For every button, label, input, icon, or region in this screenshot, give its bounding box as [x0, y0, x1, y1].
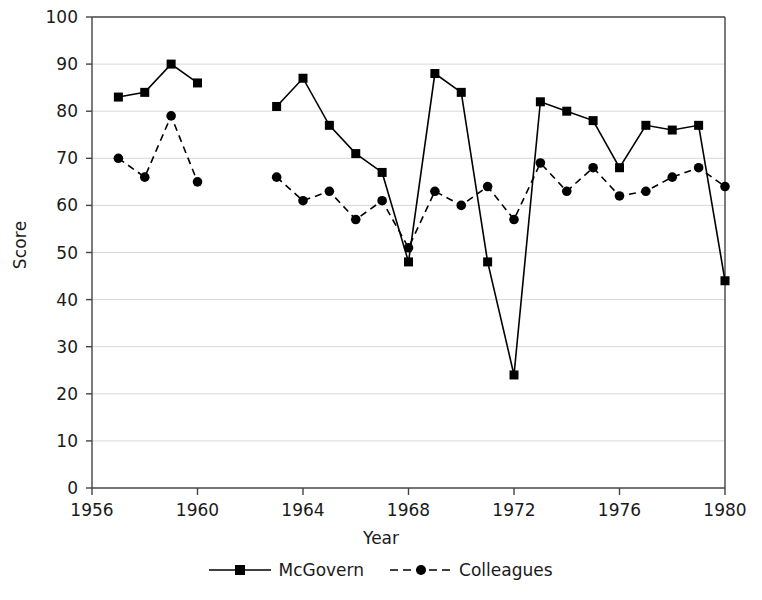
- data-point-marker: [430, 69, 439, 78]
- data-point-marker: [457, 88, 466, 97]
- data-point-marker: [166, 111, 176, 121]
- data-point-marker: [562, 186, 572, 196]
- data-point-marker: [351, 215, 361, 225]
- data-point-marker: [510, 370, 519, 379]
- data-point-marker: [298, 196, 308, 206]
- data-point-marker: [562, 107, 571, 116]
- data-point-marker: [351, 149, 360, 158]
- data-point-marker: [193, 78, 202, 87]
- data-point-marker: [430, 186, 440, 196]
- data-point-marker: [509, 215, 519, 225]
- data-point-marker: [404, 243, 414, 253]
- data-point-marker: [377, 196, 387, 206]
- line-chart: Score 0102030405060708090100 19561960196…: [0, 0, 762, 600]
- data-point-marker: [193, 177, 203, 187]
- x-axis-label: Year: [0, 528, 762, 548]
- chart-legend: McGovern Colleagues: [0, 560, 762, 580]
- data-point-marker: [588, 163, 598, 173]
- data-point-marker: [667, 172, 677, 182]
- legend-marker-dashed-circle-icon: [390, 563, 452, 577]
- data-point-marker: [114, 93, 123, 102]
- data-point-marker: [536, 97, 545, 106]
- legend-label-colleagues: Colleagues: [459, 560, 552, 580]
- data-point-marker: [615, 163, 624, 172]
- data-point-marker: [167, 60, 176, 69]
- data-point-marker: [378, 168, 387, 177]
- data-point-marker: [272, 102, 281, 111]
- data-point-marker: [483, 182, 493, 192]
- data-point-marker: [140, 172, 150, 182]
- data-point-marker: [483, 257, 492, 266]
- series-line-mcgovern: [118, 64, 197, 97]
- data-point-marker: [694, 121, 703, 130]
- data-point-marker: [456, 201, 466, 211]
- data-point-marker: [325, 186, 335, 196]
- legend-entry-mcgovern[interactable]: McGovern: [209, 560, 364, 580]
- data-point-marker: [615, 191, 625, 201]
- data-point-marker: [589, 116, 598, 125]
- data-point-marker: [325, 121, 334, 130]
- data-point-marker: [641, 121, 650, 130]
- plot-area: [0, 0, 762, 510]
- data-point-marker: [404, 257, 413, 266]
- data-point-marker: [140, 88, 149, 97]
- series-line-colleagues: [118, 116, 197, 182]
- legend-marker-solid-square-icon: [209, 563, 271, 577]
- data-point-marker: [299, 74, 308, 83]
- data-point-marker: [720, 182, 730, 192]
- data-point-marker: [668, 126, 677, 135]
- legend-label-mcgovern: McGovern: [278, 560, 364, 580]
- data-point-marker: [721, 276, 730, 285]
- data-point-marker: [114, 154, 124, 164]
- data-point-marker: [641, 186, 651, 196]
- legend-entry-colleagues[interactable]: Colleagues: [390, 560, 552, 580]
- series-line-mcgovern: [277, 74, 725, 375]
- data-point-marker: [536, 158, 546, 168]
- data-point-marker: [272, 172, 282, 182]
- data-point-marker: [694, 163, 704, 173]
